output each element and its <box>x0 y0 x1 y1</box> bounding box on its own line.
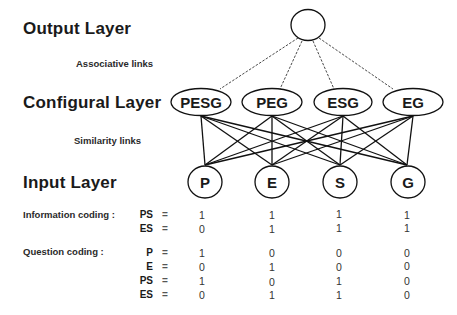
cell: 1 <box>333 275 345 287</box>
input-node-s: S <box>323 166 357 198</box>
configural-node-pesg: PESG <box>171 89 231 116</box>
output-layer-label: Output Layer <box>23 19 131 39</box>
configural-node-esg: ESG <box>314 89 372 116</box>
configural-node-label: PESG <box>180 94 222 111</box>
cell: 1 <box>266 223 278 235</box>
assoc-link-esg <box>313 41 334 89</box>
input-node-p: P <box>188 166 222 198</box>
configural-node-label: PEG <box>256 94 288 111</box>
cell: 0 <box>333 261 345 273</box>
cell: 0 <box>401 247 413 259</box>
cell: 0 <box>401 260 413 272</box>
configural-node-eg: EG <box>383 89 443 116</box>
assoc-link-eg <box>319 38 393 89</box>
configural-layer-label: Configural Layer <box>23 93 161 113</box>
cell: 1 <box>401 222 413 234</box>
row-key: ES <box>131 223 153 234</box>
cell: 1 <box>266 209 278 221</box>
row-key: P <box>131 247 153 258</box>
cell: 0 <box>401 289 413 301</box>
input-node-label: S <box>335 174 345 191</box>
cell: 1 <box>266 261 278 273</box>
associative-links-label: Associative links <box>76 58 153 69</box>
cell: 0 <box>333 247 345 259</box>
row-equals: = <box>162 247 168 258</box>
information-coding-label: Information coding : <box>23 209 115 220</box>
assoc-link-pesg <box>220 38 298 89</box>
row-equals: = <box>162 209 168 220</box>
cell: 1 <box>333 289 345 301</box>
cell: 1 <box>333 208 345 220</box>
question-coding-label: Question coding : <box>23 246 104 257</box>
cell: 1 <box>401 209 413 221</box>
cell: 0 <box>401 275 413 287</box>
cell: 0 <box>266 247 278 259</box>
similarity-links <box>201 116 413 165</box>
input-node-e: E <box>255 166 289 198</box>
cell: 1 <box>196 275 208 287</box>
input-node-label: E <box>267 174 277 191</box>
row-equals: = <box>162 289 168 300</box>
input-layer-label: Input Layer <box>23 173 117 193</box>
cell: 1 <box>266 289 278 301</box>
input-node-label: P <box>200 174 210 191</box>
cell: 0 <box>196 289 208 301</box>
row-key: PS <box>131 209 153 220</box>
row-key: ES <box>131 289 153 300</box>
configural-node-label: ESG <box>327 94 359 111</box>
row-equals: = <box>162 261 168 272</box>
assoc-link-peg <box>280 41 302 89</box>
configural-node-label: EG <box>402 94 424 111</box>
configural-node-peg: PEG <box>242 89 302 116</box>
input-node-g: G <box>391 166 425 198</box>
cell: 0 <box>196 261 208 273</box>
cell: 0 <box>266 276 278 288</box>
network-diagram: PESG PEG ESG EG P E S G <box>0 0 457 315</box>
cell: 0 <box>196 223 208 235</box>
cell: 1 <box>196 247 208 259</box>
similarity-links-label: Similarity links <box>74 135 141 146</box>
row-equals: = <box>162 275 168 286</box>
cell: 1 <box>196 209 208 221</box>
row-key: E <box>131 261 153 272</box>
associative-links <box>220 38 393 89</box>
row-key: PS <box>131 275 153 286</box>
row-equals: = <box>162 223 168 234</box>
output-node <box>291 10 325 41</box>
cell: 1 <box>333 222 345 234</box>
input-node-label: G <box>402 174 414 191</box>
